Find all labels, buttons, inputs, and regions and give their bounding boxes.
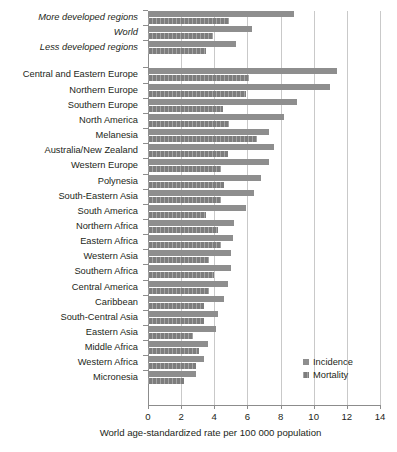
category-label: Western Europe [71,160,138,170]
x-tick [380,405,381,409]
category-label: South-Eastern Asia [58,191,138,201]
bar-mortality [148,333,193,339]
bar-mortality [148,136,257,142]
x-tick-label: 10 [308,411,319,422]
category-label: Eastern Asia [86,327,138,337]
bar-row [148,190,380,204]
bar-row [148,41,380,55]
bar-row [148,265,380,279]
category-label: South-Central Asia [60,312,138,322]
bar-incidence [148,68,337,74]
x-tick-label: 4 [212,411,217,422]
category-label: Southern Europe [68,100,138,110]
bar-incidence [148,371,196,377]
bar-mortality [148,348,199,354]
bar-rows [148,11,380,405]
bar-incidence [148,11,294,17]
legend-label-mortality: Mortality [313,370,348,380]
bar-row [148,235,380,249]
bar-incidence [148,341,208,347]
category-label: Melanesia [96,130,138,140]
bar-mortality [148,197,221,203]
legend-item-mortality: Mortality [303,369,353,381]
x-axis-title: World age-standardized rate per 100 000 … [0,427,397,438]
bar-incidence [148,175,261,181]
bar-row [148,250,380,264]
bar-incidence [148,205,246,211]
bar-row [148,11,380,25]
x-axis-title-text: World age-standardized rate per 100 000 … [76,427,322,438]
x-axis-line [148,405,380,406]
bar-mortality [148,18,229,24]
category-label: Middle Africa [85,342,138,352]
category-label: World [114,27,138,37]
bar-incidence [148,159,269,165]
bar-mortality [148,75,249,81]
bar-incidence [148,41,236,47]
bar-row [148,84,380,98]
x-tick-label: 14 [375,411,386,422]
bar-row [148,341,380,355]
category-label: Western Asia [83,251,138,261]
x-tick-label: 6 [245,411,250,422]
plot-area [148,11,380,405]
category-label: Central America [72,282,138,292]
bar-incidence [148,326,216,332]
bar-incidence [148,190,254,196]
category-label: Australia/New Zealand [44,145,138,155]
x-tick [214,405,215,409]
bar-row [148,326,380,340]
bar-incidence [148,265,231,271]
x-tick [247,405,248,409]
category-label: Micronesia [93,372,138,382]
bar-incidence [148,84,330,90]
bar-incidence [148,114,284,120]
bar-incidence [148,235,233,241]
bar-incidence [148,356,204,362]
x-tick-label: 12 [342,411,353,422]
bar-row [148,144,380,158]
bar-mortality [148,33,213,39]
gridline-14 [380,11,381,405]
bar-mortality [148,272,214,278]
bar-mortality [148,303,204,309]
bar-row [148,311,380,325]
x-tick [148,405,149,409]
category-label: Eastern Africa [80,236,138,246]
category-label: Western Africa [78,357,138,367]
bar-row [148,26,380,40]
bar-row [148,99,380,113]
category-label: North America [79,115,138,125]
category-label: Central and Eastern Europe [23,69,138,79]
bar-mortality [148,91,246,97]
legend-swatch-incidence-icon [303,359,309,365]
x-tick-label: 2 [178,411,183,422]
category-label: Southern Africa [74,266,138,276]
bar-mortality [148,288,209,294]
bar-incidence [148,144,274,150]
bar-mortality [148,121,229,127]
legend-item-incidence: Incidence [303,356,353,368]
category-label: Northern Africa [76,221,138,231]
bar-mortality [148,363,196,369]
bar-mortality [148,212,206,218]
x-tick [281,405,282,409]
bar-row [148,220,380,234]
bar-row [148,114,380,128]
category-label: Northern Europe [69,85,138,95]
chart-container: More developed regionsWorldLess develope… [0,0,397,452]
bar-mortality [148,151,228,157]
bar-row [148,281,380,295]
bar-mortality [148,257,209,263]
bar-row [148,129,380,143]
bar-incidence [148,296,224,302]
bar-row [148,205,380,219]
bar-row [148,175,380,189]
bar-mortality [148,318,204,324]
legend-label-incidence: Incidence [313,357,353,367]
x-tick [181,405,182,409]
bar-mortality [148,227,218,233]
legend-swatch-mortality-icon [303,372,309,378]
bar-row [148,159,380,173]
bar-row [148,68,380,82]
